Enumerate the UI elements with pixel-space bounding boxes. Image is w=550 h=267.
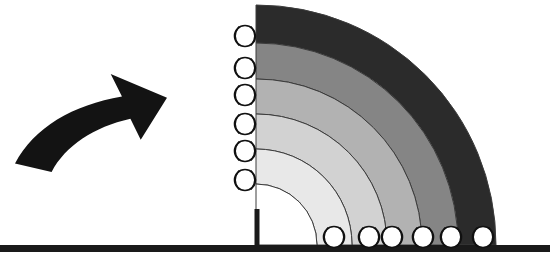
baseball-marker-vertical-6 <box>235 170 256 191</box>
baseball-marker-vertical-1 <box>235 26 256 47</box>
home-plate-post-rect <box>255 209 260 245</box>
baseball-marker-vertical-2 <box>235 58 256 79</box>
baseball-marker-ground-6 <box>473 227 494 248</box>
baseball-marker-ground-1 <box>324 227 345 248</box>
ground-line-rect <box>0 245 550 252</box>
baseball-range-fan-illustration <box>0 0 550 267</box>
baseball-marker-ground-5 <box>441 227 462 248</box>
baseball-marker-ground-4 <box>413 227 434 248</box>
baseball-marker-vertical-3 <box>235 85 256 106</box>
baseball-marker-vertical-5 <box>235 141 256 162</box>
baseball-marker-ground-3 <box>382 227 403 248</box>
baseball-marker-ground-2 <box>359 227 380 248</box>
baseball-marker-vertical-4 <box>235 114 256 135</box>
ground-line <box>0 245 550 252</box>
home-plate-post <box>255 209 260 245</box>
figure-canvas: Baseball Range Fan Diagram <box>0 0 550 267</box>
